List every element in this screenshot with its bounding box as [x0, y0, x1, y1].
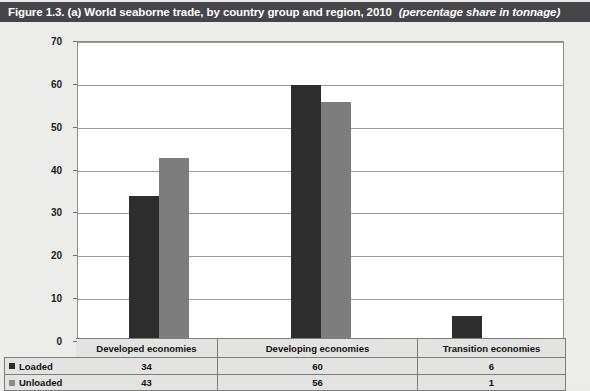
gridline [78, 85, 563, 86]
gridline [78, 42, 563, 43]
table-header-transition: Transition economies [418, 338, 566, 357]
y-axis-tick-mark [73, 212, 77, 213]
y-axis-tick-label: 20 [51, 250, 62, 261]
y-axis-tick-mark [73, 170, 77, 171]
table-header-developed: Developed economies [76, 338, 218, 357]
table-header-row: Developed economies Developing economies… [4, 338, 566, 357]
y-axis-tick-label: 60 [51, 78, 62, 89]
figure-title-bar: Figure 1.3. (a) World seaborne trade, by… [0, 2, 590, 22]
bar-loaded-developing [291, 85, 321, 342]
bar-unloaded-developed [159, 158, 189, 342]
table-corner-cell [4, 338, 76, 357]
figure-title-text: Figure 1.3. (a) World seaborne trade, by… [8, 6, 392, 18]
y-axis-tick-label: 40 [51, 164, 62, 175]
figure-title-note: (percentage share in tonnage) [399, 6, 560, 18]
y-axis-tick-label: 50 [51, 121, 62, 132]
table-cell-loaded-transition: 6 [418, 357, 566, 374]
y-axis-tick-mark [73, 298, 77, 299]
bar-loaded-developed [129, 196, 159, 342]
table-row: Loaded 34 60 6 [4, 357, 566, 374]
y-axis-tick-mark [73, 41, 77, 42]
bar-unloaded-developing [321, 102, 351, 342]
y-axis-tick-label: 70 [51, 36, 62, 47]
table-cell-loaded-developed: 34 [76, 357, 218, 374]
loaded-swatch-icon [9, 363, 15, 369]
y-axis-tick-label: 10 [51, 293, 62, 304]
legend-item-unloaded: Unloaded [4, 374, 76, 391]
data-table: Developed economies Developing economies… [4, 338, 566, 391]
table-cell-unloaded-developing: 56 [218, 374, 418, 391]
table-header-developing: Developing economies [218, 338, 418, 357]
legend-label-unloaded: Unloaded [19, 377, 62, 388]
plot-area [77, 41, 564, 343]
y-axis-tick-mark [73, 84, 77, 85]
legend-label-loaded: Loaded [19, 361, 53, 372]
legend-item-loaded: Loaded [4, 357, 76, 374]
table-cell-unloaded-transition: 1 [418, 374, 566, 391]
y-axis-labels: 010203040506070 [0, 41, 70, 341]
y-axis-tick-mark [73, 255, 77, 256]
y-axis-tick-mark [73, 341, 77, 342]
unloaded-swatch-icon [9, 380, 15, 386]
y-axis-tick-label: 30 [51, 207, 62, 218]
table-cell-loaded-developing: 60 [218, 357, 418, 374]
table-row: Unloaded 43 56 1 [4, 374, 566, 391]
figure-body: 010203040506070 Developed economies Deve… [0, 22, 590, 390]
table-cell-unloaded-developed: 43 [76, 374, 218, 391]
y-axis-tick-mark [73, 127, 77, 128]
